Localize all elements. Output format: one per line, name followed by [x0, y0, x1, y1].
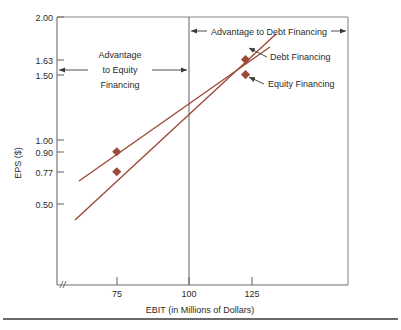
- x-axis-ticks: [117, 277, 252, 285]
- debt-financing-point-125: [241, 55, 250, 64]
- equity-financing-leader-arrow: [249, 77, 264, 84]
- y-axis-tick-labels: 2.00 1.63 1.50 1.00 0.90 0.77 0.50: [35, 13, 53, 210]
- callout-debt-financing: Debt Financing: [249, 48, 331, 62]
- equity-financing-point-125: [241, 70, 250, 79]
- y-tick-label-2-00: 2.00: [35, 13, 53, 23]
- callout-equity-financing: Equity Financing: [249, 77, 335, 89]
- y-tick-label-1-50: 1.50: [35, 71, 53, 81]
- x-tick-label-75: 75: [112, 289, 122, 299]
- annotation-advantage-equity: Advantage to Equity Financing: [59, 50, 187, 90]
- annotation-advantage-debt: Advantage to Debt Financing: [191, 27, 346, 37]
- advantage-equity-label-line1: Advantage: [98, 50, 141, 60]
- advantage-equity-label-line3: Financing: [100, 80, 139, 90]
- advantage-equity-label-line2: to Equity: [102, 65, 138, 75]
- y-tick-label-0-50: 0.50: [35, 200, 53, 210]
- x-tick-label-125: 125: [244, 289, 259, 299]
- y-tick-label-0-77: 0.77: [35, 168, 53, 178]
- debt-financing-point-75: [112, 167, 121, 176]
- x-tick-label-100: 100: [181, 289, 196, 299]
- equity-financing-label: Equity Financing: [268, 79, 335, 89]
- debt-financing-label: Debt Financing: [270, 52, 331, 62]
- y-tick-label-0-90: 0.90: [35, 148, 53, 158]
- equity-financing-point-75: [112, 147, 121, 156]
- x-axis-title: EBIT (in Millions of Dollars): [146, 305, 254, 315]
- chart-figure: 2.00 1.63 1.50 1.00 0.90 0.77 0.50 EPS (…: [0, 0, 401, 330]
- chart-canvas: 2.00 1.63 1.50 1.00 0.90 0.77 0.50 EPS (…: [0, 0, 401, 330]
- y-axis-ticks: [57, 17, 64, 204]
- y-tick-label-1-63: 1.63: [35, 56, 53, 66]
- series-debt-financing: [75, 34, 276, 220]
- x-axis-tick-labels: 75 100 125: [112, 289, 260, 299]
- y-tick-label-1-00: 1.00: [35, 136, 53, 146]
- y-axis-title: EPS ($): [13, 147, 23, 179]
- advantage-debt-label: Advantage to Debt Financing: [211, 27, 327, 37]
